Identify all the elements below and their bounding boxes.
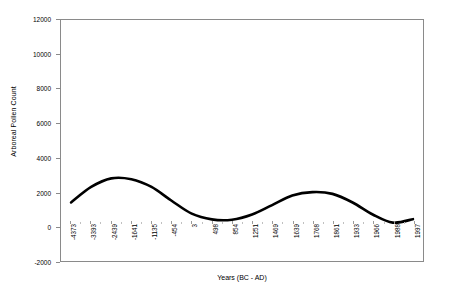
y-tick-label: 12000	[33, 16, 51, 23]
y-tick-label: 4000	[37, 154, 51, 161]
x-tick-label: 1469	[275, 224, 282, 238]
y-tick-label: 8000	[37, 85, 51, 92]
x-tick-label-text: 498	[212, 224, 219, 235]
x-tick-label: -2439	[114, 224, 121, 240]
x-minor-tick	[282, 222, 283, 224]
x-tick-label: 498	[215, 224, 222, 235]
x-tick-label-text: 1997	[414, 224, 421, 238]
x-tick-label: -3393	[93, 224, 100, 240]
x-axis: -4373-3393-2439-1641-1135-45434988541251…	[60, 224, 424, 270]
x-tick-label-text: 1251	[252, 224, 259, 238]
x-tick-label: 1768	[316, 224, 323, 238]
x-tick-label-text: -1641	[131, 224, 138, 240]
x-tick-label: -1641	[134, 224, 141, 240]
x-minor-tick	[384, 222, 385, 224]
x-minor-tick	[262, 222, 263, 224]
x-tick-label-text: 1469	[272, 224, 279, 238]
x-minor-tick	[323, 222, 324, 224]
x-tick-label: -454	[174, 224, 181, 237]
x-tick-label: 1988	[397, 224, 404, 238]
x-minor-tick	[363, 222, 364, 224]
x-tick-label-text: 1768	[313, 224, 320, 238]
x-minor-tick	[343, 222, 344, 224]
x-tick-label: -1135	[154, 224, 161, 240]
x-minor-tick	[141, 222, 142, 224]
x-tick-label: 1861	[336, 224, 343, 238]
y-tick-label: 10000	[33, 50, 51, 57]
x-tick-label-text: 1639	[293, 224, 300, 238]
x-minor-tick	[242, 222, 243, 224]
x-tick-label: 1966	[376, 224, 383, 238]
x-tick-label: 1997	[417, 224, 424, 238]
x-tick-label-text: 3	[191, 224, 198, 228]
x-tick-label-text: 1966	[373, 224, 380, 238]
x-tick-label-text: -3393	[90, 224, 97, 240]
y-tick-label: -2000	[34, 259, 51, 266]
x-minor-tick	[80, 222, 81, 224]
x-minor-tick	[100, 222, 101, 224]
x-tick-label-text: 1988	[394, 224, 401, 238]
x-tick-label-text: -1135	[151, 224, 158, 240]
x-tick-label-text: -2439	[111, 224, 118, 240]
x-minor-tick	[181, 222, 182, 224]
y-axis-title: Arboreal Pollen Count	[10, 62, 17, 182]
y-axis: 120001000080006000400020000-2000	[0, 19, 56, 262]
x-minor-tick	[161, 222, 162, 224]
y-tick-label: 6000	[37, 120, 51, 127]
x-tick-label: 1639	[296, 224, 303, 238]
x-tick-label: -4373	[73, 224, 80, 240]
y-tick-label: 2000	[37, 189, 51, 196]
x-minor-tick	[202, 222, 203, 224]
x-tick-label-text: -4373	[70, 224, 77, 240]
pollen-count-chart: 120001000080006000400020000-2000 Arborea…	[0, 0, 453, 295]
x-tick-label-text: 854	[232, 224, 239, 235]
x-tick-label: 854	[235, 224, 242, 235]
x-tick-label-text: -454	[171, 224, 178, 237]
x-tick-label: 1933	[356, 224, 363, 238]
x-tick-label: 1251	[255, 224, 262, 238]
x-tick-label-text: 1861	[333, 224, 340, 238]
x-axis-title: Years (BC - AD)	[60, 274, 424, 281]
y-tick-label: 0	[47, 224, 51, 231]
x-tick-label: 3	[194, 224, 201, 228]
x-tick-label-text: 1933	[353, 224, 360, 238]
